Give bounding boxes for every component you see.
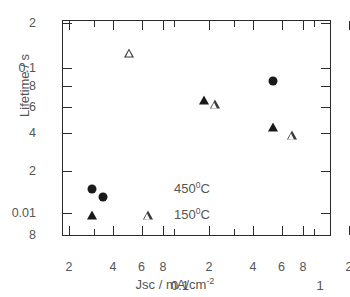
- y-axis-tick: [63, 171, 72, 172]
- x-axis-tick: [282, 21, 283, 30]
- x-axis-tick: [314, 21, 315, 27]
- x-axis-tick: [303, 226, 304, 235]
- y-axis-tick: [321, 68, 330, 69]
- legend-filled-triangle-icon: [87, 211, 97, 220]
- legend-label: 4500C: [174, 180, 210, 196]
- scatter-chart-figure: Lifetime / s Jsc / mA/cm-2 20.186420.018…: [0, 0, 350, 297]
- y-axis-tick: [321, 23, 330, 24]
- y-axis-tick: [63, 235, 72, 236]
- legend-label-text: 150: [174, 207, 196, 222]
- x-axis-tick-label: 6: [138, 261, 145, 274]
- y-axis-tick: [63, 133, 72, 134]
- x-axis-tick: [253, 226, 254, 235]
- x-axis-tick-label: 8: [160, 261, 167, 274]
- y-axis-tick-label: 2: [29, 165, 36, 178]
- x-axis-tick-label: 2: [346, 261, 350, 274]
- x-axis-decade-label: 0.1: [171, 279, 189, 292]
- x-axis-title-exponent: -2: [206, 276, 214, 286]
- y-axis-tick: [321, 213, 330, 214]
- legend-row: 4500C: [70, 178, 230, 200]
- y-axis-tick: [321, 107, 330, 108]
- y-axis-tick: [321, 86, 330, 87]
- x-axis-tick: [163, 21, 164, 30]
- y-axis-tick-label: 2: [29, 17, 36, 30]
- legend-label-text: 450: [174, 181, 196, 196]
- x-axis-tick: [174, 229, 175, 235]
- legend-row: 1500C: [70, 204, 230, 226]
- y-axis-tick: [321, 133, 330, 134]
- data-point-open-triangle: [287, 131, 297, 140]
- data-point-filled-triangle: [199, 95, 209, 104]
- y-axis-tick-label: 6: [29, 101, 36, 114]
- x-axis-tick-label: 6: [278, 261, 285, 274]
- x-axis-tick: [234, 229, 235, 235]
- x-axis-tick: [142, 21, 143, 30]
- x-axis-tick-label: 2: [66, 261, 73, 274]
- y-axis-tick: [321, 171, 330, 172]
- x-axis-tick: [209, 21, 210, 30]
- legend-filled-circle-icon: [88, 185, 97, 194]
- y-axis-tick: [63, 107, 72, 108]
- y-axis-tick-label: 4: [29, 127, 36, 140]
- y-axis-tick-label: 0.1: [19, 62, 36, 75]
- y-axis-tick-label: 8: [29, 229, 36, 242]
- x-axis-tick-label: 2: [206, 261, 213, 274]
- x-axis-tick-label: 4: [250, 261, 257, 274]
- x-axis-tick: [234, 21, 235, 27]
- x-axis-tick: [303, 21, 304, 30]
- legend-label: 1500C: [174, 206, 210, 222]
- x-axis-tick: [94, 229, 95, 235]
- y-axis-tick-label: 0.01: [12, 207, 36, 220]
- chart-legend: 4500C 1500C: [70, 178, 230, 228]
- data-point-open-triangle: [210, 100, 220, 109]
- y-axis-tick: [321, 235, 330, 236]
- x-axis-tick: [113, 21, 114, 30]
- x-axis-tick: [174, 21, 175, 27]
- x-axis-tick: [282, 226, 283, 235]
- x-axis-tick-label: 4: [110, 261, 117, 274]
- x-axis-tick: [94, 21, 95, 27]
- x-axis-decade-label: 1: [316, 279, 323, 292]
- x-axis-tick: [253, 21, 254, 30]
- x-axis-tick-label: 8: [300, 261, 307, 274]
- data-point-open-triangle: [124, 48, 134, 57]
- x-axis-tick: [69, 21, 70, 30]
- data-point-filled-circle: [268, 76, 277, 85]
- legend-unit-text: C: [200, 207, 209, 222]
- x-axis-tick: [314, 229, 315, 235]
- legend-open-triangle-icon: [143, 211, 153, 220]
- legend-unit-text: C: [200, 181, 209, 196]
- y-axis-tick-label: 8: [29, 80, 36, 93]
- y-axis-tick: [63, 86, 72, 87]
- y-axis-tick: [63, 68, 72, 69]
- data-point-filled-triangle: [268, 123, 278, 132]
- y-axis-tick: [63, 23, 72, 24]
